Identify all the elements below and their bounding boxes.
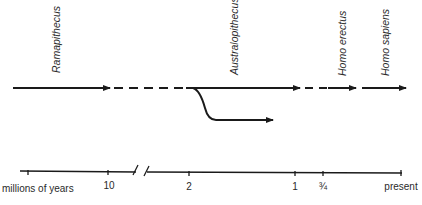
axis-break-mark [144, 166, 149, 176]
label-australopithecus: Australopithecus [228, 0, 240, 75]
label-homo-sapiens: Homo sapiens [379, 9, 391, 76]
time-axis-left [20, 171, 136, 172]
time-axis-right [147, 172, 402, 173]
axis-title: millions of years [2, 183, 74, 194]
lineage-diagram [0, 0, 422, 205]
tick-label-2: 2 [186, 181, 192, 192]
axis-break-mark [133, 165, 138, 175]
label-ramapithecus: Ramapithecus [50, 6, 62, 73]
label-homo-erectus: Homo erectus [336, 11, 348, 76]
tick-label-three-quarters: ¾ [319, 181, 327, 192]
tick-label-1: 1 [292, 181, 298, 192]
tick-label-present: present [384, 181, 417, 192]
tick-label-10: 10 [103, 180, 114, 191]
australopithecus-branch-arrow [193, 88, 273, 120]
